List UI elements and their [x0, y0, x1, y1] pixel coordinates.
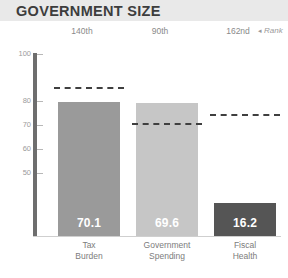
- reference-line-tax-burden: [54, 87, 124, 89]
- y-tick-mark-100: [37, 54, 43, 55]
- y-tick-mark-70: [37, 125, 43, 126]
- y-tick-label-60: 60: [23, 144, 31, 153]
- y-tick-100: 100: [0, 49, 31, 59]
- y-tick-mark-60: [37, 149, 43, 150]
- y-tick-label-70: 70: [23, 120, 31, 129]
- y-tick-80: 80: [0, 96, 31, 106]
- y-tick-60: 60: [0, 144, 31, 154]
- bar-fiscal-health[interactable]: 16.2: [214, 203, 276, 236]
- y-tick-50: 50: [0, 168, 31, 178]
- x-axis-baseline: [33, 236, 281, 237]
- category-label-tax-burden: Tax Burden: [53, 240, 125, 261]
- y-tick-label-100: 100: [18, 49, 31, 58]
- rank-label-government-spending: 90th: [124, 26, 196, 36]
- y-tick-label-50: 50: [23, 168, 31, 177]
- y-tick-label-80: 80: [23, 96, 31, 105]
- bar-value-government-spending: 69.6: [136, 216, 198, 230]
- bar-value-tax-burden: 70.1: [58, 216, 120, 230]
- rank-legend-label: Rank: [264, 26, 283, 35]
- reference-line-fiscal-health: [210, 114, 280, 116]
- reference-line-government-spending: [132, 123, 202, 125]
- y-tick-mark-80: [37, 101, 43, 102]
- rank-label-tax-burden: 140th: [46, 26, 118, 36]
- y-tick-70: 70: [0, 120, 31, 130]
- left-caret-icon: ◂: [258, 27, 262, 34]
- category-label-fiscal-health: Fiscal Health: [209, 240, 281, 261]
- bar-tax-burden[interactable]: 70.1: [58, 102, 120, 236]
- y-tick-mark-50: [37, 173, 43, 174]
- bar-value-fiscal-health: 16.2: [214, 216, 276, 230]
- chart-plot-area: 140th 90th 162nd ◂Rank 100 80 70 60 50 7…: [0, 0, 288, 278]
- category-label-government-spending: Government Spending: [131, 240, 203, 261]
- rank-legend: ◂Rank: [258, 26, 283, 35]
- y-axis: [33, 53, 37, 236]
